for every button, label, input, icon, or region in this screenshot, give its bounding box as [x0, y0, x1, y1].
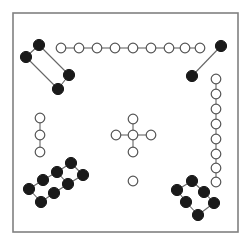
graph-node-open[interactable]	[35, 147, 45, 157]
graph-node-open[interactable]	[146, 43, 156, 53]
graph-node-filled[interactable]	[215, 40, 226, 51]
graph-node-filled[interactable]	[192, 209, 203, 220]
graph-node-filled[interactable]	[208, 197, 219, 208]
graph-node-filled[interactable]	[186, 175, 197, 186]
graph-node-filled[interactable]	[77, 169, 88, 180]
graph-node-filled[interactable]	[48, 187, 59, 198]
graph-node-filled[interactable]	[198, 186, 209, 197]
figure-canvas	[0, 0, 252, 244]
graph-node-open[interactable]	[56, 43, 66, 53]
graph-node-open[interactable]	[164, 43, 174, 53]
graph-node-open[interactable]	[211, 134, 221, 144]
graph-node-open[interactable]	[92, 43, 102, 53]
graph-node-filled[interactable]	[51, 166, 62, 177]
graph-node-open[interactable]	[195, 43, 205, 53]
graph-node-open[interactable]	[128, 176, 138, 186]
graph-node-filled[interactable]	[171, 184, 182, 195]
graph-node-open[interactable]	[74, 43, 84, 53]
graph-node-open[interactable]	[128, 114, 138, 124]
graph-node-filled[interactable]	[63, 69, 74, 80]
graph-node-filled[interactable]	[35, 196, 46, 207]
graph-node-filled[interactable]	[52, 83, 63, 94]
graph-node-open[interactable]	[211, 74, 221, 84]
graph-node-open[interactable]	[211, 119, 221, 129]
graph-node-filled[interactable]	[33, 39, 44, 50]
graph-node-filled[interactable]	[37, 174, 48, 185]
graph-node-filled[interactable]	[20, 51, 31, 62]
graph-node-open[interactable]	[128, 130, 138, 140]
graph-node-open[interactable]	[35, 130, 45, 140]
graph-node-open[interactable]	[111, 130, 121, 140]
graph-node-filled[interactable]	[180, 196, 191, 207]
graph-node-open[interactable]	[211, 163, 221, 173]
graph-node-open[interactable]	[211, 104, 221, 114]
graph-node-open[interactable]	[180, 43, 190, 53]
graph-node-open[interactable]	[146, 130, 156, 140]
graph-node-open[interactable]	[128, 43, 138, 53]
graph-node-filled[interactable]	[23, 183, 34, 194]
graph-node-open[interactable]	[35, 113, 45, 123]
graph-node-open[interactable]	[211, 149, 221, 159]
graph-node-open[interactable]	[128, 147, 138, 157]
graph-node-filled[interactable]	[65, 157, 76, 168]
node-link-graph	[0, 0, 252, 244]
graph-node-open[interactable]	[211, 177, 221, 187]
graph-node-filled[interactable]	[186, 70, 197, 81]
graph-node-open[interactable]	[211, 89, 221, 99]
graph-node-filled[interactable]	[62, 178, 73, 189]
graph-node-open[interactable]	[110, 43, 120, 53]
